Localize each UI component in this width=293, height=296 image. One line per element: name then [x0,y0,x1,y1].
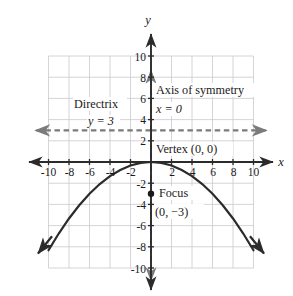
axis-of-symmetry-label: Axis of symmetry [156,83,245,97]
xtick-2: 2 [169,166,175,178]
focus-coordinates: (0, −3) [155,205,188,219]
directrix-label: Directrix [74,97,118,111]
xtick--10: -10 [41,166,57,178]
ytick--10: -10 [131,263,147,275]
xtick-4: 4 [190,166,196,178]
ytick-10: 10 [135,51,147,63]
parabola-graph: -10 -8 -6 -4 -2 2 4 6 8 10 10 8 6 4 2 -2… [0,0,293,296]
xtick-10: 10 [248,166,260,178]
ytick-6: 6 [140,93,146,105]
focus-label: Focus [159,186,188,200]
axis-of-symmetry-equation: x = 0 [155,102,182,116]
x-axis-label: x [277,155,284,169]
ytick--6: -6 [136,220,146,232]
ytick-2: 2 [140,135,146,147]
canvas-background [0,0,293,296]
ytick--4: -4 [136,199,146,211]
xtick--4: -4 [106,166,116,178]
y-axis-label: y [143,13,151,27]
xtick-6: 6 [210,166,216,178]
vertex-label: Vertex (0, 0) [156,142,217,156]
xtick--6: -6 [85,166,95,178]
ytick--2: -2 [136,178,146,190]
xtick--8: -8 [65,166,75,178]
directrix-equation: y = 3 [86,114,114,128]
xtick--2: -2 [126,166,136,178]
xtick-8: 8 [231,166,237,178]
focus-point [148,191,154,197]
ytick-4: 4 [140,114,146,126]
ytick-8: 8 [140,72,146,84]
ytick--8: -8 [136,241,146,253]
